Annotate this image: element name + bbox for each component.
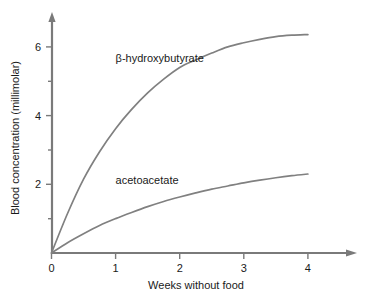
y-tick-label-4: 4: [35, 110, 41, 122]
y-axis-arrow-icon: [48, 12, 55, 22]
y-tick-label-6: 6: [35, 41, 41, 53]
y-tick-label-2: 2: [35, 178, 41, 190]
chart-container: 2 4 6 0 1 2 3 4 Weeks without food Blood…: [0, 0, 370, 295]
x-tick-label-0: 0: [48, 262, 54, 274]
x-tick-label-1: 1: [113, 262, 119, 274]
x-axis-arrow-icon: [346, 249, 357, 256]
series-label-beta-hydroxybutyrate: β-hydroxybutyrate: [116, 52, 204, 64]
chart-plot-area: 2 4 6 0 1 2 3 4 Weeks without food Blood…: [0, 0, 370, 295]
x-tick-label-2: 2: [177, 262, 183, 274]
x-tick-label-3: 3: [241, 262, 247, 274]
series-line-acetoacetate: [52, 174, 308, 253]
x-tick-label-4: 4: [305, 262, 311, 274]
y-axis-title: Blood concentration (millimolar): [9, 61, 21, 215]
x-axis-title: Weeks without food: [148, 279, 244, 291]
series-line-beta-hydroxybutyrate: [52, 35, 308, 253]
series-label-acetoacetate: acetoacetate: [116, 174, 179, 186]
